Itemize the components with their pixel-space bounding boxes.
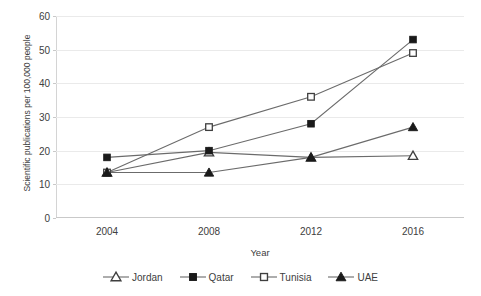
- data-point-qatar-2016: [410, 36, 417, 43]
- series-line-qatar: [107, 40, 413, 158]
- y-tick-label: 20: [39, 145, 50, 156]
- series-layer: [56, 16, 464, 218]
- line-chart: Scientific publications per 100,000 peop…: [0, 0, 481, 296]
- y-tick-mark: [53, 218, 56, 219]
- legend-item-tunisia[interactable]: Tunisia: [251, 270, 312, 284]
- series-line-jordan: [107, 152, 413, 172]
- legend-label: Tunisia: [280, 272, 312, 283]
- legend-item-uae[interactable]: UAE: [328, 270, 378, 284]
- y-tick-label: 0: [44, 213, 50, 224]
- legend-label: Jordan: [132, 272, 163, 283]
- data-point-tunisia-2016: [410, 50, 417, 57]
- data-point-qatar-2008: [206, 147, 213, 154]
- legend-item-qatar[interactable]: Qatar: [180, 270, 234, 284]
- legend-marker-filled-square: [180, 270, 206, 284]
- legend-marker-open-triangle: [103, 270, 129, 284]
- data-point-tunisia-2008: [206, 124, 213, 131]
- x-tick-label: 2004: [96, 226, 118, 237]
- data-point-jordan-2016: [408, 151, 417, 159]
- y-tick-label: 40: [39, 78, 50, 89]
- plot-area: 01020304050602004200820122016: [56, 16, 464, 218]
- series-line-uae: [107, 127, 413, 172]
- data-point-qatar-2004: [104, 154, 111, 161]
- y-tick-label: 10: [39, 179, 50, 190]
- legend-marker-filled-triangle: [328, 270, 354, 284]
- data-point-uae-2016: [408, 123, 417, 131]
- y-tick-label: 30: [39, 112, 50, 123]
- x-tick-label: 2016: [402, 226, 424, 237]
- chart-legend: JordanQatarTunisiaUAE: [0, 270, 481, 284]
- legend-marker-open-square: [251, 270, 277, 284]
- data-point-tunisia-2012: [308, 94, 315, 101]
- x-axis-title: Year: [56, 247, 464, 258]
- y-axis-title: Scientific publications per 100,000 peop…: [22, 8, 32, 218]
- legend-label: UAE: [357, 272, 378, 283]
- y-tick-label: 50: [39, 44, 50, 55]
- data-point-qatar-2012: [308, 120, 315, 127]
- x-tick-label: 2012: [300, 226, 322, 237]
- legend-label: Qatar: [209, 272, 234, 283]
- x-tick-label: 2008: [198, 226, 220, 237]
- legend-item-jordan[interactable]: Jordan: [103, 270, 163, 284]
- y-tick-label: 60: [39, 11, 50, 22]
